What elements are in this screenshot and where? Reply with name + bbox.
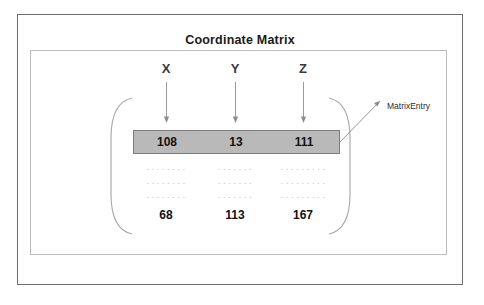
matrix-last-cell-x: 68	[139, 208, 193, 222]
ellipsis-cell: .........	[276, 163, 330, 172]
matrix-entry-row[interactable]: 108 13 111	[133, 130, 340, 154]
matrix-last-cell-y: 113	[208, 208, 262, 222]
matrix-entry-cell-y: 13	[209, 135, 263, 149]
ellipsis-cell: .........	[276, 177, 330, 186]
ellipsis-row: ........ ....... .........	[0, 177, 484, 186]
matrix-entry-cell-x: 108	[140, 135, 194, 149]
column-header-y: Y	[215, 61, 255, 76]
ellipsis-cell: ........	[139, 163, 193, 172]
callout-leader-line	[332, 96, 388, 148]
ellipsis-cell: ........	[139, 191, 193, 200]
ellipsis-cell: .......	[208, 177, 262, 186]
ellipsis-row: ........ ....... .........	[0, 191, 484, 200]
page-title: Coordinate Matrix	[17, 33, 463, 47]
column-header-z: Z	[283, 61, 323, 76]
diagram-canvas: Coordinate Matrix X Y Z	[0, 0, 484, 305]
matrix-last-cell-z: 167	[276, 208, 330, 222]
column-header-x: X	[146, 61, 186, 76]
ellipsis-cell: .......	[208, 191, 262, 200]
ellipsis-row: ........ ....... .........	[0, 163, 484, 172]
ellipsis-cell: .........	[276, 191, 330, 200]
matrix-entry-cell-z: 111	[277, 135, 331, 149]
ellipsis-cell: .......	[208, 163, 262, 172]
ellipsis-cell: ........	[139, 177, 193, 186]
callout-label-matrix-entry: MatrixEntry	[387, 101, 430, 111]
matrix-last-row: 68 113 167	[0, 208, 484, 226]
